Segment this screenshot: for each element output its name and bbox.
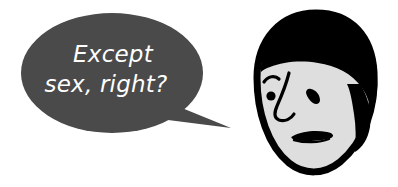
character-head [257,11,377,172]
speech-bubble: Except sex, right? [21,13,231,133]
cartoon-illustration: Except sex, right? [0,0,398,187]
speech-bubble-line-1: Except [73,41,154,67]
speech-bubble-line-2: sex, right? [45,71,168,97]
left-eye [266,91,275,100]
